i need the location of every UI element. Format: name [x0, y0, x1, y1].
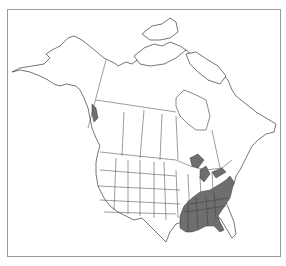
- ellesmere-island: [142, 18, 178, 40]
- north-america-map: [0, 0, 286, 266]
- landmass-outline: [12, 36, 276, 242]
